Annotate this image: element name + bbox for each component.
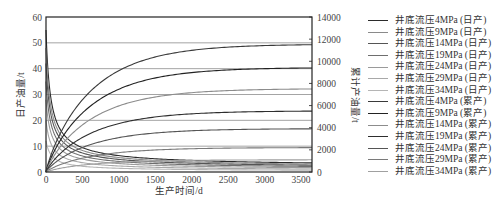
gridlines	[46, 43, 312, 146]
legend-swatch-icon	[368, 125, 388, 126]
legend-label: 井底流压19MPa (累产)	[395, 131, 491, 143]
legend-swatch-icon	[368, 55, 388, 56]
x-tick-label: 500	[75, 175, 90, 185]
right-axis-ticks: 02000400060008000100001200014000	[309, 13, 341, 178]
legend-swatch-icon	[368, 113, 388, 114]
legend-item: 井底流压34MPa (日产)	[368, 85, 491, 97]
legend-swatch-icon	[368, 78, 388, 79]
legend-item: 井底流压19MPa (日产)	[368, 50, 491, 62]
legend-swatch-icon	[368, 20, 388, 21]
legend-item: 井底流压9MPa (累产)	[368, 108, 491, 120]
x-tick-label: 3500	[292, 175, 311, 185]
legend-label: 井底流压29MPa (累产)	[395, 154, 491, 166]
legend-swatch-icon	[368, 67, 388, 68]
left-tick-label: 30	[33, 90, 43, 100]
right-tick-label: 10000	[317, 57, 341, 67]
plot-curves	[46, 30, 312, 172]
legend-label: 井底流压24MPa (累产)	[395, 143, 491, 155]
left-tick-label: 60	[33, 13, 43, 23]
right-tick-label: 12000	[317, 35, 341, 45]
x-tick-label: 1500	[146, 175, 165, 185]
legend-label: 井底流压24MPa (日产)	[395, 61, 491, 73]
right-axis-title: 累计产油量/t	[350, 67, 361, 123]
legend-item: 井底流压29MPa (累产)	[368, 154, 491, 166]
x-tick-label: 1000	[109, 175, 128, 185]
left-axis-ticks: 0102030405060	[33, 13, 43, 178]
legend-item: 井底流压24MPa (日产)	[368, 61, 491, 73]
legend-label: 井底流压9MPa (日产)	[395, 27, 486, 39]
legend-item: 井底流压14MPa (日产)	[368, 38, 491, 50]
legend-item: 井底流压29MPa (日产)	[368, 73, 491, 85]
legend-label: 井底流压4MPa (日产)	[395, 15, 486, 27]
left-tick-label: 10	[33, 142, 43, 152]
chart-legend: 井底流压4MPa (日产)井底流压9MPa (日产)井底流压14MPa (日产)…	[368, 15, 491, 177]
right-tick-label: 14000	[317, 13, 341, 23]
legend-item: 井底流压9MPa (日产)	[368, 27, 491, 39]
legend-swatch-icon	[368, 43, 388, 44]
x-axis-ticks: 0500100015002000250030003500	[44, 175, 311, 185]
left-tick-label: 20	[33, 116, 43, 126]
left-tick-label: 40	[33, 64, 43, 74]
legend-label: 井底流压29MPa (日产)	[395, 73, 491, 85]
legend-item: 井底流压24MPa (累产)	[368, 143, 491, 155]
legend-label: 井底流压19MPa (日产)	[395, 50, 491, 62]
right-tick-label: 2000	[317, 145, 336, 155]
legend-swatch-icon	[368, 171, 388, 172]
legend-swatch-icon	[368, 159, 388, 160]
legend-label: 井底流压14MPa (日产)	[395, 38, 491, 50]
right-tick-label: 6000	[317, 101, 336, 111]
series-line	[46, 45, 312, 172]
legend-label: 井底流压4MPa (累产)	[395, 96, 486, 108]
legend-label: 井底流压9MPa (累产)	[395, 108, 486, 120]
right-tick-label: 4000	[317, 123, 336, 133]
legend-item: 井底流压4MPa (日产)	[368, 15, 491, 27]
x-tick-label: 2000	[182, 175, 201, 185]
legend-label: 井底流压34MPa (累产)	[395, 166, 491, 178]
legend-item: 井底流压34MPa (累产)	[368, 166, 491, 178]
right-tick-label: 8000	[317, 79, 336, 89]
legend-item: 井底流压4MPa (累产)	[368, 96, 491, 108]
left-axis-title: 日产油量/t	[15, 72, 26, 118]
legend-item: 井底流压14MPa (累产)	[368, 119, 491, 131]
legend-label: 井底流压34MPa (日产)	[395, 85, 491, 97]
left-tick-label: 0	[37, 168, 42, 178]
legend-swatch-icon	[368, 148, 388, 149]
legend-swatch-icon	[368, 101, 388, 102]
x-axis-title: 生产时间/d	[155, 185, 203, 196]
x-tick-label: 0	[44, 175, 49, 185]
legend-label: 井底流压14MPa (累产)	[395, 119, 491, 131]
legend-swatch-icon	[368, 90, 388, 91]
right-tick-label: 0	[317, 168, 322, 178]
left-tick-label: 50	[33, 38, 43, 48]
x-tick-label: 2500	[219, 175, 238, 185]
legend-swatch-icon	[368, 136, 388, 137]
x-tick-label: 3000	[255, 175, 274, 185]
legend-swatch-icon	[368, 32, 388, 33]
legend-item: 井底流压19MPa (累产)	[368, 131, 491, 143]
